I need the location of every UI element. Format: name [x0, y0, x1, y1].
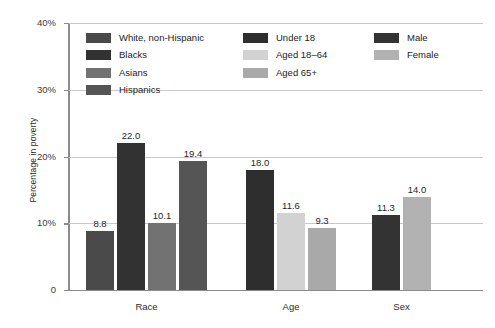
- legend-item: Blacks: [86, 48, 204, 63]
- legend-label: Aged 65+: [276, 68, 317, 78]
- y-axis-tick-mark: [64, 157, 69, 158]
- legend-item: Male: [374, 30, 439, 45]
- bar: [148, 223, 176, 290]
- legend-item: Hispanics: [86, 83, 204, 98]
- y-axis-tick-label: 30%: [22, 85, 56, 95]
- gridline: [69, 23, 483, 24]
- y-axis-tick-label: 40%: [22, 18, 56, 28]
- legend-item: Aged 18–64: [243, 48, 327, 63]
- legend-column: White, non-HispanicBlacksAsiansHispanics: [86, 30, 204, 100]
- poverty-bar-chart: Percentage in poverty 010%20%30%40% 8.82…: [0, 0, 495, 328]
- legend-item: Under 18: [243, 30, 327, 45]
- x-axis-group-label: Sex: [362, 301, 442, 312]
- y-axis-tick-label: 10%: [22, 218, 56, 228]
- legend-swatch-icon: [243, 33, 268, 43]
- legend-label: Hispanics: [119, 85, 160, 95]
- y-axis-tick-label: 20%: [22, 152, 56, 162]
- bar-value-label: 8.8: [80, 218, 120, 229]
- x-axis-group-label: Race: [107, 301, 187, 312]
- bar: [308, 228, 336, 290]
- legend-swatch-icon: [374, 33, 399, 43]
- legend-label: Blacks: [119, 50, 147, 60]
- legend-label: Asians: [119, 68, 148, 78]
- bar-value-label: 14.0: [397, 184, 437, 195]
- legend-label: Male: [407, 33, 428, 43]
- y-axis-tick-mark: [64, 23, 69, 24]
- bar: [86, 231, 114, 290]
- legend-swatch-icon: [243, 68, 268, 78]
- legend-swatch-icon: [86, 33, 111, 43]
- y-axis-tick-mark: [64, 290, 69, 291]
- legend-label: Aged 18–64: [276, 50, 327, 60]
- legend-label: Female: [407, 50, 439, 60]
- legend-swatch-icon: [86, 68, 111, 78]
- legend-item: Female: [374, 48, 439, 63]
- legend-swatch-icon: [86, 50, 111, 60]
- bar-value-label: 18.0: [240, 157, 280, 168]
- bar: [372, 215, 400, 290]
- legend-swatch-icon: [243, 50, 268, 60]
- legend-item: Asians: [86, 65, 204, 80]
- bar-value-label: 11.6: [271, 200, 311, 211]
- bar: [403, 197, 431, 290]
- legend-label: Under 18: [276, 33, 315, 43]
- y-axis-tick-labels: 010%20%30%40%: [18, 0, 56, 328]
- bar: [277, 213, 305, 290]
- legend-label: White, non-Hispanic: [119, 33, 204, 43]
- legend-swatch-icon: [86, 85, 111, 95]
- bar-value-label: 19.4: [173, 148, 213, 159]
- bar: [117, 143, 145, 290]
- bar-value-label: 9.3: [302, 215, 342, 226]
- y-axis-tick-label: 0: [22, 285, 56, 295]
- bar-value-label: 22.0: [111, 130, 151, 141]
- legend-item: White, non-Hispanic: [86, 30, 204, 45]
- y-axis-tick-mark: [64, 223, 69, 224]
- bar-value-label: 11.3: [366, 202, 406, 213]
- bar-value-label: 10.1: [142, 210, 182, 221]
- chart-legend: White, non-HispanicBlacksAsiansHispanics…: [86, 30, 466, 92]
- x-axis-line: [68, 290, 483, 291]
- y-axis-tick-mark: [64, 90, 69, 91]
- x-axis-group-label: Age: [251, 301, 331, 312]
- bar: [246, 170, 274, 290]
- legend-item: Aged 65+: [243, 65, 327, 80]
- legend-column: MaleFemale: [374, 30, 439, 65]
- legend-swatch-icon: [374, 50, 399, 60]
- legend-column: Under 18Aged 18–64Aged 65+: [243, 30, 327, 83]
- bar: [179, 161, 207, 290]
